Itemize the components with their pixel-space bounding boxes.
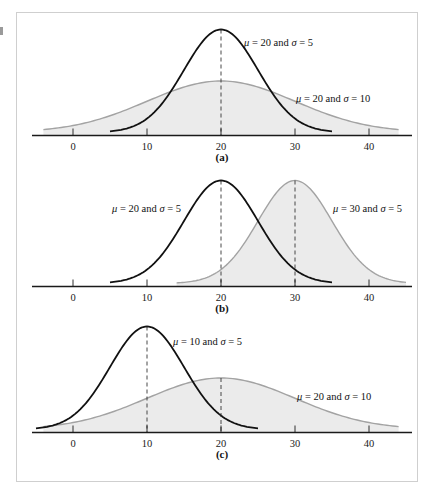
caption-c: (c)	[216, 448, 229, 461]
tick-label: 10	[142, 438, 153, 449]
tick-label: 20	[216, 438, 227, 449]
tick-label: 40	[364, 141, 375, 152]
annotation-b-left: μ = 20 and σ = 5	[111, 203, 181, 214]
tick-label: 40	[364, 438, 375, 449]
annotation-a-wide: μ = 20 and σ = 10	[295, 93, 370, 104]
annotation-a-narrow: μ = 20 and σ = 5	[243, 37, 313, 48]
tick-label: 30	[290, 141, 301, 152]
tick-label: 20	[216, 141, 227, 152]
annotation-c-wide: μ = 20 and σ = 10	[296, 391, 371, 402]
panel-b: 010203040 μ = 20 and σ = 5 μ = 30 and σ …	[32, 181, 412, 316]
tick-label: 20	[216, 292, 227, 303]
edge-mark	[0, 27, 3, 35]
normal-distributions-figure: 010203040 μ = 20 and σ = 5 μ = 20 and σ …	[0, 0, 430, 490]
annotation-b-right: μ = 30 and σ = 5	[332, 203, 402, 214]
tick-label: 30	[290, 292, 301, 303]
caption-b: (b)	[215, 302, 229, 315]
tick-label: 0	[70, 141, 75, 152]
panel-c: 010203040 μ = 10 and σ = 5 μ = 20 and σ …	[32, 327, 412, 462]
tick-label: 0	[70, 292, 75, 303]
tick-label: 0	[70, 438, 75, 449]
curve-b-right-fill	[177, 181, 406, 287]
tick-label: 10	[142, 141, 153, 152]
tick-label: 10	[142, 292, 153, 303]
panel-a: 010203040 μ = 20 and σ = 5 μ = 20 and σ …	[32, 30, 412, 165]
annotation-c-narrow: μ = 10 and σ = 5	[172, 336, 242, 347]
caption-a: (a)	[216, 151, 229, 164]
tick-label: 40	[364, 292, 375, 303]
tick-label: 30	[290, 438, 301, 449]
